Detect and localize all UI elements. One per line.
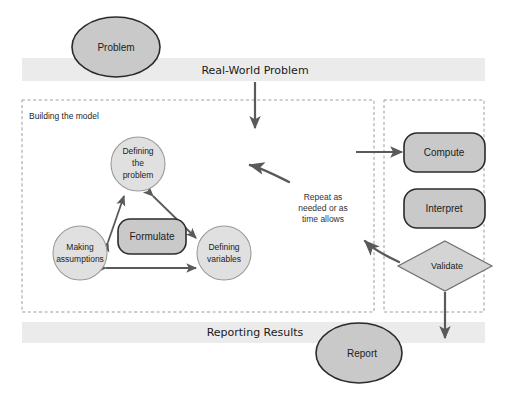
note-repeat-line-1: Repeat as	[304, 192, 343, 202]
diagram-canvas: Real-World Problem Reporting Results Bui…	[0, 0, 521, 399]
band-label-real-world-problem: Real-World Problem	[201, 64, 308, 77]
band-label-reporting-results: Reporting Results	[207, 326, 304, 339]
arrow-curve-back-to-model	[250, 165, 289, 182]
node-label-defining-the-problem-1: Defining	[122, 146, 153, 156]
node-label-defining-the-problem-2: the	[132, 158, 144, 168]
node-label-making-assumptions-2: assumptions	[56, 254, 104, 264]
note-repeat-line-2: needed or as	[298, 203, 348, 213]
node-label-validate: Validate	[431, 261, 463, 271]
node-label-defining-the-problem-3: problem	[123, 170, 154, 180]
node-label-defining-variables-2: variables	[207, 254, 241, 264]
arrow-curve-validate-to-model	[365, 241, 399, 262]
group-label-building-the-model: Building the model	[29, 111, 99, 121]
node-defining-variables[interactable]	[197, 226, 251, 280]
node-label-formulate: Formulate	[129, 231, 174, 242]
node-label-defining-variables-1: Defining	[208, 242, 239, 252]
node-label-report: Report	[347, 348, 377, 359]
node-label-problem: Problem	[97, 42, 134, 53]
modeling-process-diagram: Real-World Problem Reporting Results Bui…	[0, 0, 521, 399]
note-repeat-line-3: time allows	[302, 214, 344, 224]
node-label-compute: Compute	[424, 147, 465, 158]
node-making-assumptions[interactable]	[53, 226, 107, 280]
node-label-making-assumptions-1: Making	[66, 242, 94, 252]
node-label-interpret: Interpret	[425, 203, 462, 214]
